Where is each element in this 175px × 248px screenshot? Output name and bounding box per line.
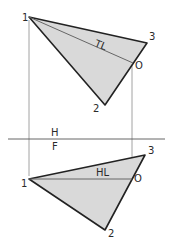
fold-label-h: H [51,127,59,138]
projection-diagram: 1 3 2 O TL H F 1 3 2 O HL [0,0,175,248]
top-point-o-label: O [135,60,143,71]
front-vertex-3-label: 3 [148,145,154,156]
front-point-o-label: O [134,173,142,184]
front-view-triangle [29,155,145,230]
top-vertex-2-label: 2 [93,103,99,114]
top-vertex-1-label: 1 [22,12,28,23]
front-vertex-1-label: 1 [21,178,27,189]
top-vertex-3-label: 3 [149,31,155,42]
front-vertex-2-label: 2 [108,228,114,239]
horizontal-line-label: HL [96,167,110,178]
diagram-svg: 1 3 2 O TL H F 1 3 2 O HL [0,0,175,248]
fold-label-f: F [52,141,58,152]
